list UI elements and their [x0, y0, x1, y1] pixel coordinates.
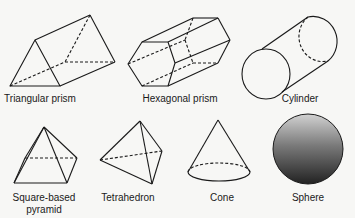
cylinder-label: Cylinder: [282, 93, 319, 105]
sphere-label: Sphere: [292, 192, 324, 204]
triangular-prism-shape: [10, 15, 115, 86]
cylinder-shape: [242, 16, 337, 99]
tetrahedron-label: Tetrahedron: [101, 192, 154, 204]
cone-label: Cone: [210, 192, 234, 204]
shapes-canvas: [0, 0, 355, 218]
square-pyramid-label-line1: Square-based: [13, 192, 76, 204]
tetrahedron-shape: [100, 121, 162, 184]
square-pyramid-label-line2: pyramid: [26, 204, 62, 216]
hexagonal-prism-shape: [128, 18, 230, 86]
hexagonal-prism-label: Hexagonal prism: [142, 93, 217, 105]
cone-shape: [188, 120, 250, 181]
square-pyramid-shape: [14, 127, 77, 183]
triangular-prism-label: Triangular prism: [4, 93, 76, 105]
sphere-shape: [273, 114, 343, 184]
solid-shapes-diagram: Triangular prism Hexagonal prism Cylinde…: [0, 0, 355, 218]
